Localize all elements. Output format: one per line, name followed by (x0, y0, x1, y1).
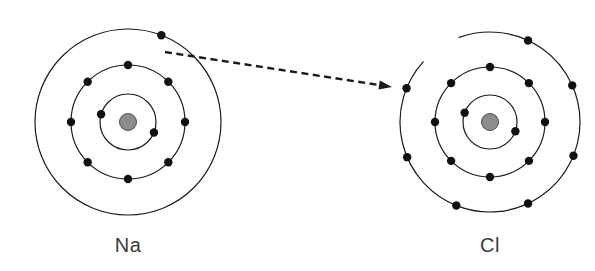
chlorine-outer-shell-electron (452, 201, 460, 209)
chlorine-outer-shell-electron (403, 153, 411, 161)
sodium-middle-shell-electron (164, 77, 172, 85)
sodium-middle-shell-electron (83, 77, 91, 85)
arrow-layer (165, 52, 392, 89)
sodium-inner-shell-electron (150, 128, 158, 136)
electron-transfer-arrowhead (378, 81, 392, 90)
chlorine-outer-shell-electron (524, 36, 532, 44)
sodium-middle-shell-electron (67, 118, 75, 126)
chlorine-middle-shell-electron (541, 118, 549, 126)
atom-label-chlorine: Cl (480, 234, 500, 256)
sodium-inner-shell-electron (97, 110, 105, 118)
sodium-nucleus (120, 114, 137, 131)
chlorine-outer-shell-electron (569, 152, 577, 160)
chlorine-nucleus (482, 114, 499, 131)
chlorine-middle-shell-electron (486, 173, 494, 181)
sodium-middle-shell-electron (83, 158, 91, 166)
atom-chlorine (400, 32, 580, 212)
chlorine-middle-shell-electron (447, 157, 455, 165)
chlorine-middle-shell-electron (431, 118, 439, 126)
chlorine-outer-shell-electron (402, 84, 410, 92)
chlorine-middle-shell-electron (447, 79, 455, 87)
sodium-middle-shell-electron (124, 175, 132, 183)
sodium-middle-shell-electron (124, 61, 132, 69)
atoms-layer (35, 29, 580, 215)
chlorine-outer-shell-electron (568, 81, 576, 89)
sodium-outer-shell-electron (157, 31, 165, 39)
chlorine-middle-shell-electron (525, 79, 533, 87)
chlorine-inner-shell-electron (460, 109, 468, 117)
sodium-middle-shell-electron (181, 118, 189, 126)
diagram-canvas: NaCl (0, 0, 595, 271)
chlorine-middle-shell-electron (486, 63, 494, 71)
atom-label-sodium: Na (115, 234, 142, 256)
chlorine-inner-shell-electron (511, 127, 519, 135)
electron-transfer-arrow-shaft (165, 52, 381, 85)
labels-layer: NaCl (115, 234, 500, 256)
sodium-middle-shell-electron (164, 158, 172, 166)
chlorine-middle-shell-electron (525, 157, 533, 165)
chlorine-outer-shell-electron (524, 199, 532, 207)
electron-transfer-diagram: NaCl (0, 0, 595, 271)
